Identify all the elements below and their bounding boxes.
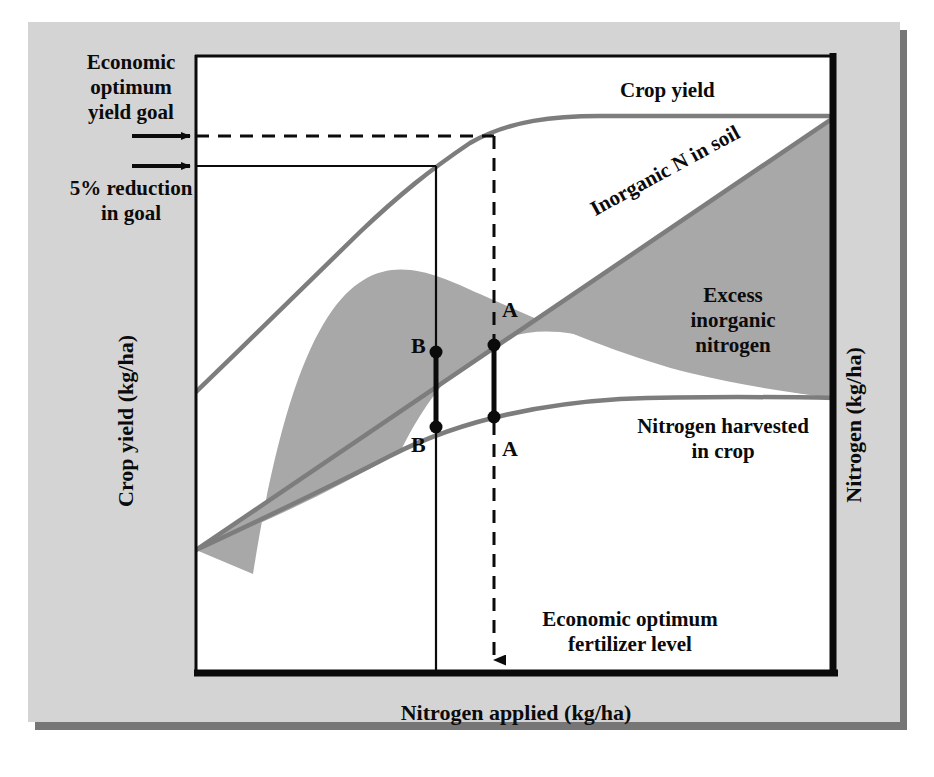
excess-inorganic-nitrogen-label: Excess inorganic nitrogen (648, 283, 818, 357)
marker-A-upper (488, 339, 501, 352)
marker-B-upper (430, 346, 443, 359)
x-axis-title: Nitrogen applied (kg/ha) (196, 700, 836, 726)
five-percent-reduction-label: 5% reduction in goal (38, 176, 224, 226)
point-label-b-lower: B (411, 432, 426, 458)
point-label-a-upper: A (502, 297, 518, 323)
marker-A-lower (488, 411, 501, 424)
crop-yield-series-label: Crop yield (620, 78, 715, 103)
marker-B-lower (430, 421, 443, 434)
y-axis-right-title: Nitrogen (kg/ha) (841, 295, 867, 555)
economic-optimum-yield-goal-label: Economic optimum yield goal (38, 50, 224, 124)
point-label-b-upper: B (411, 333, 426, 359)
nitrogen-harvested-series-label: Nitrogen harvested in crop (613, 414, 833, 464)
economic-optimum-fertilizer-level-label: Economic optimum fertilizer level (515, 607, 745, 657)
point-label-a-lower: A (502, 436, 518, 462)
figure-root: Economic optimum yield goal 5% reduction… (0, 0, 934, 777)
y-axis-left-title: Crop yield (kg/ha) (113, 291, 139, 551)
